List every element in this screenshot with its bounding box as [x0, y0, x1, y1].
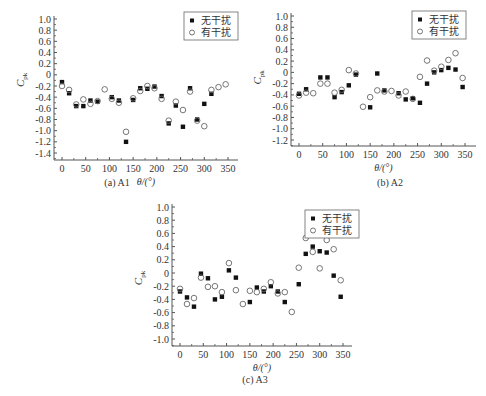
data-point [331, 273, 335, 277]
data-point [227, 268, 231, 272]
x-tick-label: 250 [410, 149, 425, 160]
data-point [404, 97, 408, 101]
data-point [311, 244, 315, 248]
x-tick-label: 100 [102, 163, 117, 174]
data-point [283, 300, 287, 304]
data-point [453, 67, 457, 71]
chart-A1: 1.00.80.60.40.20-0.2-0.4-0.6-0.8-1.0-1.2… [14, 12, 238, 189]
data-point [453, 50, 459, 56]
x-tick-label: 100 [219, 349, 234, 360]
y-tick-label: -0.2 [153, 281, 169, 292]
data-point [185, 295, 189, 299]
legend: 无干扰有干扰 [305, 210, 359, 238]
x-tick-label: 50 [198, 349, 208, 360]
data-point [124, 140, 128, 144]
y-tick-label: 0.8 [157, 215, 170, 226]
y-tick-label: -1.2 [272, 135, 288, 146]
chart-caption: (a) A1 [104, 177, 129, 189]
x-tick-label: 200 [386, 149, 401, 160]
data-point [248, 300, 252, 304]
data-point [375, 71, 379, 75]
data-point [310, 249, 316, 255]
x-tick-label: 300 [434, 149, 449, 160]
y-tick-label: -1.4 [35, 148, 51, 159]
legend-filled-square-icon [311, 217, 315, 221]
chart-caption: (b) A2 [377, 177, 403, 189]
data-point [223, 82, 229, 88]
data-point [206, 276, 210, 280]
data-point [233, 287, 239, 293]
y-tick-label: 0.6 [157, 228, 170, 239]
x-tick-label: 150 [242, 349, 257, 360]
y-tick-label: 1.0 [39, 14, 52, 25]
data-point [325, 75, 329, 79]
y-axis-label: Cpk [14, 72, 29, 87]
series-with-interference [177, 235, 343, 315]
y-tick-label: 0.6 [39, 36, 52, 47]
series-with-interference [296, 50, 465, 109]
y-tick-label: -0.4 [35, 92, 51, 103]
data-point [418, 101, 422, 105]
x-axis-label: θ/(°) [253, 362, 272, 374]
chart-caption: (c) A3 [242, 374, 267, 386]
y-tick-label: -0.2 [272, 78, 288, 89]
y-tick-label: -0.4 [272, 89, 288, 100]
data-point [240, 301, 246, 307]
x-tick-label: 200 [149, 163, 164, 174]
legend-label: 有干扰 [201, 26, 231, 38]
data-point [446, 57, 452, 63]
data-point [81, 104, 85, 108]
legend-filled-square-icon [190, 19, 194, 23]
y-tick-label: 0.4 [276, 44, 289, 55]
x-tick-label: 100 [339, 149, 354, 160]
data-point [102, 87, 108, 93]
y-tick-label: -1.0 [35, 125, 51, 136]
data-point [212, 283, 218, 289]
data-point [180, 107, 186, 113]
y-tick-label: -0.6 [153, 307, 169, 318]
data-point [325, 81, 331, 87]
x-tick-label: 0 [297, 149, 302, 160]
data-point [184, 301, 190, 307]
legend-filled-square-icon [418, 18, 422, 22]
x-tick-label: 0 [178, 349, 183, 360]
data-point [202, 102, 206, 106]
y-tick-label: 0 [283, 67, 288, 78]
legend-label: 有干扰 [322, 224, 352, 236]
data-point [247, 288, 253, 294]
data-point [254, 289, 260, 295]
legend: 无干扰有干扰 [412, 11, 466, 39]
x-axis-label: θ/(°) [137, 176, 156, 188]
data-point [346, 67, 352, 73]
data-point [318, 81, 324, 87]
data-point [338, 295, 342, 299]
data-point [417, 74, 423, 80]
series-no-interference [297, 66, 465, 110]
data-point [331, 246, 337, 252]
figure-canvas: 1.00.80.60.40.20-0.2-0.4-0.6-0.8-1.0-1.2… [0, 0, 486, 396]
x-axis-label: θ/(°) [374, 162, 393, 174]
y-tick-label: -1.2 [35, 136, 51, 147]
data-point [296, 265, 302, 271]
x-tick-label: 350 [336, 349, 351, 360]
data-point [181, 125, 185, 129]
legend-label: 无干扰 [322, 212, 352, 224]
y-tick-label: 1.0 [157, 202, 170, 213]
y-axis-label: Cpk [132, 270, 147, 285]
y-tick-label: 0.8 [39, 25, 52, 36]
x-tick-label: 150 [363, 149, 378, 160]
legend: 无干扰有干扰 [184, 12, 238, 40]
x-tick-label: 250 [173, 163, 188, 174]
data-point [367, 94, 373, 100]
x-tick-label: 150 [126, 163, 141, 174]
x-tick-label: 250 [289, 349, 304, 360]
data-point [360, 104, 366, 110]
y-tick-label: -0.8 [153, 320, 169, 331]
data-point [318, 249, 322, 253]
y-axis-label: Cpk [251, 70, 266, 85]
y-tick-label: 0.4 [39, 47, 52, 58]
y-tick-label: -0.8 [272, 112, 288, 123]
data-point [123, 129, 129, 135]
data-point [317, 266, 323, 272]
series-no-interference [60, 80, 214, 144]
